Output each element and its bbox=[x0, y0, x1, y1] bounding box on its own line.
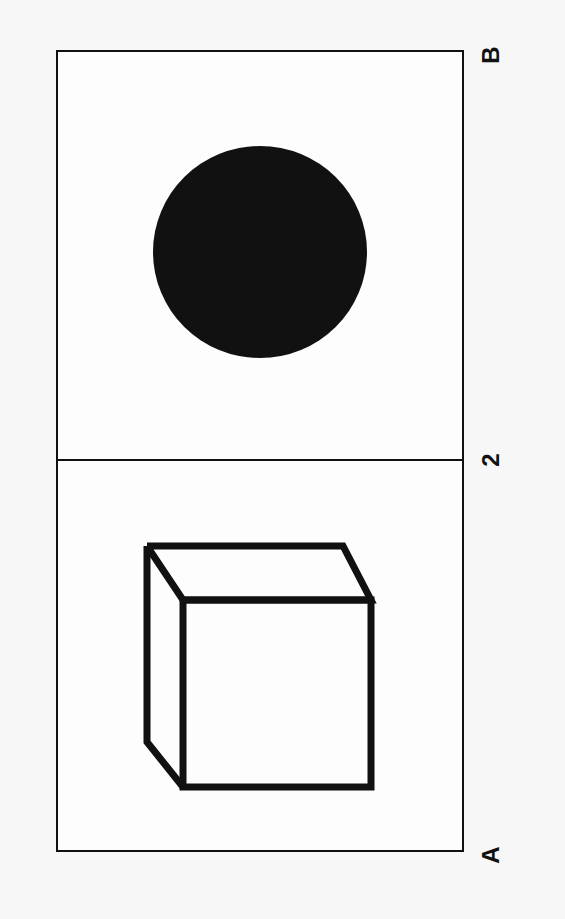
label-a: A bbox=[476, 840, 506, 870]
label-2: 2 bbox=[476, 445, 506, 475]
filled-circle-icon bbox=[153, 146, 367, 358]
label-b: B bbox=[476, 40, 506, 70]
cube-icon bbox=[147, 546, 371, 787]
